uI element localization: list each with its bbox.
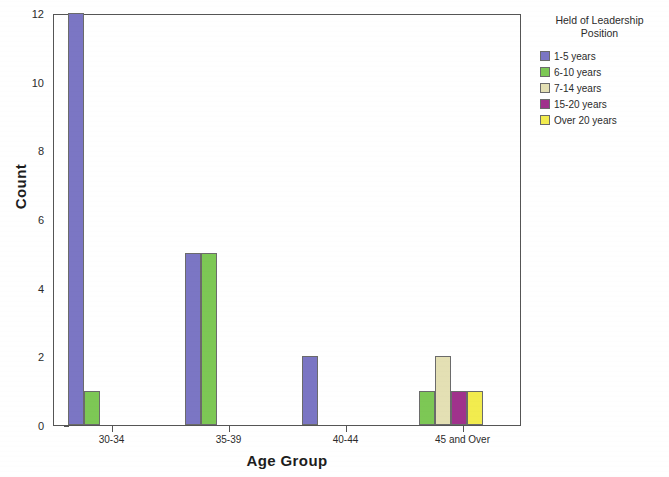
legend-items: 1-5 years6-10 years7-14 years15-20 years… <box>530 49 669 127</box>
bar <box>435 356 451 425</box>
legend-label: 1-5 years <box>554 51 596 62</box>
x-tick-label: 45 and Over <box>435 434 490 445</box>
legend: Held of Leadership Position 1-5 years6-1… <box>530 14 669 129</box>
plot-area <box>53 14 521 426</box>
y-tick-label: 6 <box>16 214 44 226</box>
legend-swatch-icon <box>540 67 550 77</box>
legend-label: Over 20 years <box>554 115 617 126</box>
legend-swatch-icon <box>540 83 550 93</box>
x-tick-mark <box>112 426 113 432</box>
y-tick-label: 8 <box>16 145 44 157</box>
legend-item: 6-10 years <box>540 65 669 79</box>
bar <box>201 253 217 425</box>
y-tick-label: 2 <box>16 351 44 363</box>
legend-item: 7-14 years <box>540 81 669 95</box>
y-tick-label: 0 <box>16 420 44 432</box>
x-axis-title: Age Group <box>53 452 521 469</box>
legend-swatch-icon <box>540 115 550 125</box>
x-tick-mark <box>346 426 347 432</box>
legend-label: 15-20 years <box>554 99 607 110</box>
bars-layer <box>54 15 520 425</box>
bar <box>451 391 467 425</box>
legend-item: Over 20 years <box>540 113 669 127</box>
y-axis-ticks: 024681012 <box>16 0 44 477</box>
legend-item: 15-20 years <box>540 97 669 111</box>
bar-chart: Count 024681012 30-3435-3940-4445 and Ov… <box>0 0 669 477</box>
y-tick-label: 10 <box>16 77 44 89</box>
x-tick-label: 30-34 <box>99 434 125 445</box>
legend-title-line-2: Position <box>581 27 618 39</box>
bar <box>467 391 483 425</box>
bar <box>68 13 84 425</box>
legend-label: 6-10 years <box>554 67 601 78</box>
bar <box>419 391 435 425</box>
legend-swatch-icon <box>540 99 550 109</box>
x-tick-mark <box>463 426 464 432</box>
y-tick-label: 4 <box>16 283 44 295</box>
x-tick-label: 35-39 <box>216 434 242 445</box>
legend-swatch-icon <box>540 51 550 61</box>
legend-title-line-1: Held of Leadership <box>555 14 643 26</box>
x-tick-mark <box>229 426 230 432</box>
y-tick-label: 12 <box>16 8 44 20</box>
x-tick-label: 40-44 <box>333 434 359 445</box>
bar <box>185 253 201 425</box>
legend-title: Held of Leadership Position <box>530 14 669 40</box>
legend-label: 7-14 years <box>554 83 601 94</box>
bar <box>302 356 318 425</box>
bar <box>84 391 100 425</box>
legend-item: 1-5 years <box>540 49 669 63</box>
